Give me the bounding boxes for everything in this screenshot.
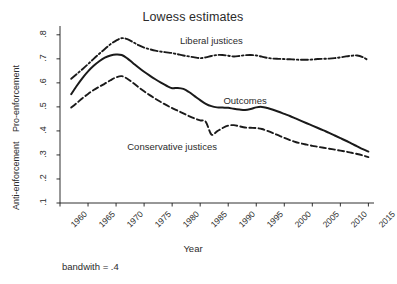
y-tick-label: .3 (38, 143, 48, 165)
y-tick-label: .7 (38, 47, 48, 69)
y-tick-label: .8 (38, 23, 48, 45)
y-tick-label: .4 (38, 119, 48, 141)
series-label-outcomes: Outcomes (223, 95, 266, 106)
y-tick-label: .2 (38, 167, 48, 189)
series-label-conservative-justices: Conservative justices (127, 141, 217, 152)
series-label-liberal-justices: Liberal justices (180, 35, 243, 46)
x-axis-label: Year (0, 243, 386, 254)
y-tick-label: .6 (38, 71, 48, 93)
y-tick-label: .1 (38, 191, 48, 213)
chart-footnote: bandwith = .4 (62, 261, 119, 272)
y-tick-label: .5 (38, 95, 48, 117)
series-line-1 (71, 54, 368, 151)
series-line-2 (71, 76, 368, 157)
